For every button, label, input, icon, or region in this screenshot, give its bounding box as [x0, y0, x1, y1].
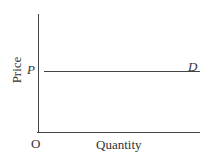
y-axis-label: Price — [9, 50, 25, 90]
x-axis-label: Quantity — [96, 137, 142, 153]
demand-curve-line — [44, 71, 200, 72]
price-level-label: P — [27, 62, 35, 78]
x-axis — [37, 132, 200, 133]
y-axis — [38, 14, 39, 133]
curve-label: D — [188, 59, 197, 75]
origin-label: O — [31, 136, 40, 152]
